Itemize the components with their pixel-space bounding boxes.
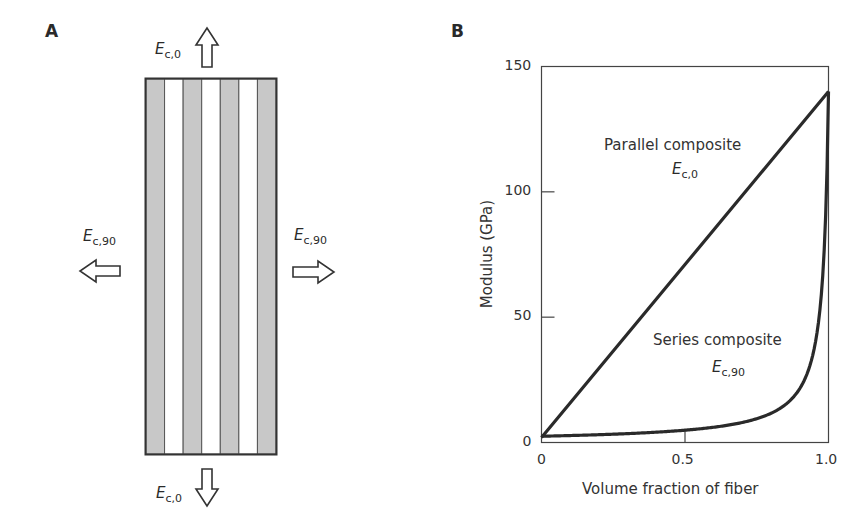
series-annotation: Series composite (653, 331, 782, 349)
y-tick-label: 150 (505, 57, 532, 73)
x-tick-label: 0.5 (672, 451, 694, 467)
y-tick-label: 0 (523, 433, 532, 449)
y-axis-title: Modulus (GPa) (478, 199, 496, 309)
x-tick-label: 0 (537, 451, 546, 467)
parallel-annotation: Parallel composite (604, 136, 741, 154)
axis-ticks (542, 192, 686, 443)
x-axis-title: Volume fraction of fiber (582, 480, 759, 498)
series-modulus-label: Ec,90 (712, 358, 745, 379)
y-tick-label: 100 (505, 182, 532, 198)
parallel-modulus-label: Ec,0 (672, 160, 698, 181)
chart-plot (0, 0, 867, 525)
x-tick-label: 1.0 (815, 451, 837, 467)
y-tick-label: 50 (514, 307, 532, 323)
